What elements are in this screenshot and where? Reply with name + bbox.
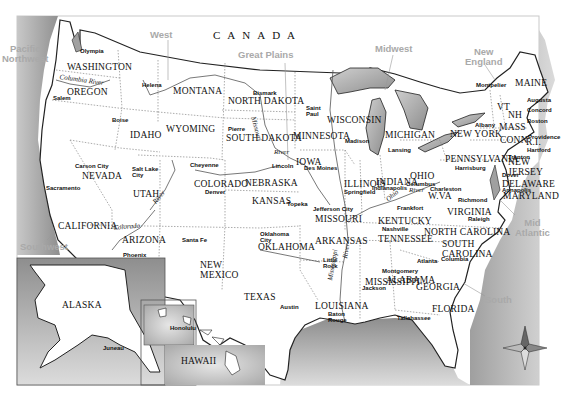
city-label: Topeka	[287, 201, 308, 207]
city-label: Montpelier	[476, 82, 506, 88]
city-label: Harrisburg	[455, 165, 486, 171]
city-label: Cheyenne	[190, 162, 219, 168]
city-label: Carson City	[75, 163, 109, 169]
state-label: ARKANSAS	[315, 237, 368, 247]
city-label: Springfield	[344, 189, 375, 195]
state-label: IDAHO	[130, 131, 162, 141]
state-label: CONN	[500, 136, 528, 146]
city-label: Boston	[527, 118, 548, 124]
city-label: Concord	[527, 107, 552, 113]
state-label: MARYLAND	[503, 192, 559, 202]
city-label: Albany	[475, 122, 495, 128]
country-label-canada: CANADA	[213, 30, 302, 41]
city-label: Saint Paul	[306, 105, 321, 117]
city-label: Salem	[53, 95, 71, 101]
state-label: CALIFORNIA	[58, 222, 118, 232]
state-label: NH	[508, 111, 522, 121]
state-label: NORTH CAROLINA	[424, 228, 510, 238]
region-label: Southwest	[20, 242, 68, 252]
city-label: Atlanta	[417, 258, 437, 264]
city-label: Helena	[142, 82, 162, 88]
city-label: Honolulu	[170, 325, 196, 331]
state-label: MISSOURI	[315, 215, 362, 225]
city-label: Augusta	[527, 97, 551, 103]
state-label: NEW YORK	[450, 130, 502, 140]
city-label: Santa Fe	[182, 237, 207, 243]
state-label: MINNESOTA	[293, 132, 350, 142]
city-label: Madison	[345, 138, 369, 144]
city-label: Jefferson City	[313, 206, 353, 212]
state-label: TEXAS	[244, 293, 276, 303]
region-label: New England	[465, 47, 502, 66]
state-label: NORTH DAKOTA	[228, 97, 304, 107]
city-label: Dover	[502, 172, 519, 178]
city-label: Columbia	[441, 256, 468, 262]
river-label: River	[409, 187, 424, 194]
state-label: NEVADA	[82, 172, 122, 182]
state-label: WYOMING	[166, 125, 215, 135]
city-label: Tallahassee	[397, 315, 431, 321]
state-label: SOUTH DAKOTA	[226, 134, 302, 144]
region-label: Midwest	[375, 44, 412, 54]
state-label: MASS	[499, 123, 526, 133]
alaska-inset	[17, 258, 165, 385]
city-label: Raleigh	[468, 216, 490, 222]
city-label: Hartford	[527, 147, 551, 153]
city-label: Denver	[205, 189, 225, 195]
city-label: Des Moines	[304, 165, 337, 171]
state-label: ARIZONA	[122, 236, 166, 246]
state-label: ALASKA	[62, 301, 102, 311]
city-label: Phoenix	[123, 252, 146, 258]
region-label: Great Plains	[238, 50, 293, 60]
city-label: Baton Rouge	[328, 311, 347, 323]
region-label: South	[485, 295, 512, 305]
city-label: Charleston	[430, 186, 461, 192]
city-label: Trenton	[508, 154, 530, 160]
city-label: Boise	[112, 117, 128, 123]
state-label: WISCONSIN	[327, 116, 382, 126]
city-label: Olympia	[80, 48, 104, 54]
city-label: Jackson	[362, 285, 386, 291]
state-label: MAINE	[515, 79, 547, 89]
state-label: NEBRASKA	[245, 179, 298, 189]
city-label: Bismark	[253, 90, 277, 96]
state-label: WASHINGTON	[67, 63, 132, 73]
region-label: Mid Atlantic	[515, 218, 550, 237]
state-label: W.VA	[428, 192, 452, 202]
city-label: Pierre	[228, 126, 245, 132]
city-label: Providence	[528, 134, 560, 140]
city-label: Annapolis	[502, 187, 531, 193]
city-label: Austin	[280, 304, 299, 310]
city-label: Salt Lake City	[132, 166, 158, 178]
state-label: NEW MEXICO	[200, 261, 239, 280]
region-label: Pacific Northwest	[2, 44, 48, 63]
state-label: OREGON	[67, 88, 108, 98]
state-label: OKLAHOMA	[258, 243, 315, 253]
state-label: HAWAII	[181, 357, 216, 367]
river-label: River	[274, 149, 289, 156]
state-label: GEORGIA	[416, 283, 460, 293]
region-label: West	[150, 30, 173, 40]
city-label: Lansing	[388, 147, 411, 153]
state-label: FLORIDA	[432, 305, 475, 315]
city-label: Oklahoma City	[260, 231, 289, 243]
city-label: Indianapolis	[372, 185, 407, 191]
city-label: Juneau	[103, 345, 124, 351]
city-label: Nashville	[382, 226, 408, 232]
city-label: Richmond	[458, 197, 487, 203]
state-label: KANSAS	[252, 197, 291, 207]
state-label: MONTANA	[173, 87, 222, 97]
city-label: Frankfort	[397, 205, 423, 211]
city-label: Sacramento	[46, 185, 80, 191]
city-label: Montgomery	[382, 268, 418, 274]
city-label: Lincoln	[272, 163, 293, 169]
state-label: MICHIGAN	[385, 131, 435, 141]
